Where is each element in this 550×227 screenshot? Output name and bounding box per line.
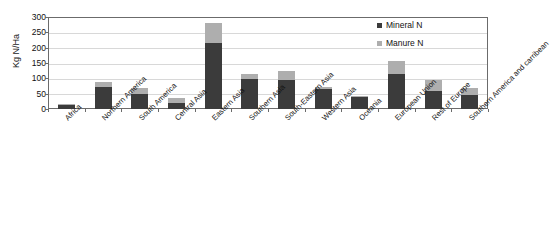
chart-legend: Mineral NManure N	[377, 20, 483, 51]
bar-segment	[205, 23, 222, 43]
y-tick-label: 300	[18, 13, 46, 21]
y-tick-label: 0	[18, 105, 46, 113]
legend-swatch-icon	[377, 23, 382, 28]
bar-segment	[95, 82, 112, 87]
x-tick-mark	[341, 109, 342, 112]
y-tick-label: 100	[18, 74, 46, 82]
legend-item: Manure N	[377, 38, 423, 49]
x-tick-mark	[378, 109, 379, 112]
x-tick-mark	[415, 109, 416, 112]
legend-label: Mineral N	[386, 21, 422, 30]
bar-segment	[168, 98, 185, 103]
bar-group	[205, 17, 222, 109]
bar-group	[131, 17, 148, 109]
x-tick-mark	[85, 109, 86, 112]
bar-group	[95, 17, 112, 109]
y-tick-label: 50	[18, 90, 46, 98]
x-tick-mark	[231, 109, 232, 112]
bar-segment	[388, 74, 405, 109]
bar-group	[241, 17, 258, 109]
y-tick-label: 200	[18, 44, 46, 52]
bar-group	[315, 17, 332, 109]
bar-segment	[351, 96, 368, 98]
bar-segment	[241, 74, 258, 79]
bar-group	[351, 17, 368, 109]
bar-segment	[388, 61, 405, 74]
x-tick-mark	[195, 109, 196, 112]
x-tick-mark	[451, 109, 452, 112]
bar-segment	[205, 43, 222, 109]
bar-group	[58, 17, 75, 109]
y-tick-label: 250	[18, 28, 46, 36]
y-tick-label: 150	[18, 59, 46, 67]
legend-swatch-icon	[377, 41, 382, 46]
legend-label: Manure N	[386, 39, 423, 48]
legend-item: Mineral N	[377, 20, 422, 31]
x-tick-mark	[158, 109, 159, 112]
x-tick-mark	[121, 109, 122, 112]
x-tick-mark	[488, 109, 489, 112]
x-tick-mark	[48, 109, 49, 112]
x-tick-mark	[305, 109, 306, 112]
bar-segment	[278, 71, 295, 80]
x-tick-mark	[268, 109, 269, 112]
